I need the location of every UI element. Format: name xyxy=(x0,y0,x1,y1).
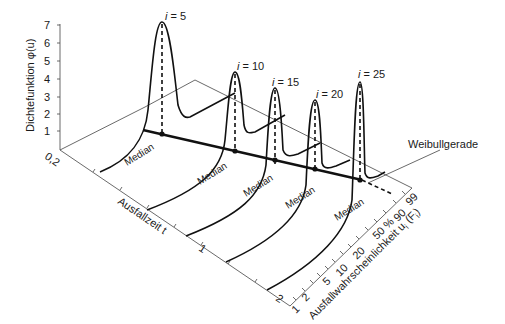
density-curve-i5 xyxy=(100,22,235,172)
median-label-i5: Median xyxy=(122,141,156,168)
prob-tick-1: 1 xyxy=(289,303,302,316)
peak-label-i15: i = 15 xyxy=(272,76,299,88)
y-tick-4: 4 xyxy=(44,73,50,85)
y-tick-2: 2 xyxy=(44,108,50,120)
peak-label-i5: i = 5 xyxy=(165,10,186,22)
prob-tick-99: 99 xyxy=(403,190,420,207)
density-curve-i10 xyxy=(147,72,285,210)
y-tick-7: 7 xyxy=(44,19,50,31)
time-axis-label: Ausfallzeit t xyxy=(116,195,169,236)
prob-tick-5: 5 xyxy=(320,275,333,288)
time-tick-2: 2 xyxy=(274,292,286,305)
y-axis xyxy=(57,24,60,150)
median-label-i15: Median xyxy=(241,172,275,199)
peak-label-i10: i = 10 xyxy=(237,60,264,72)
prob-tick-2: 2 xyxy=(299,291,312,304)
probability-axis-label: Ausfallwahrscheinlichkeit ui (Fi) xyxy=(306,205,424,323)
y-tick-1: 1 xyxy=(44,125,50,137)
origin-label: 0,2 xyxy=(43,150,62,169)
peak-label-i25: i = 25 xyxy=(358,68,385,80)
weibull-line xyxy=(143,130,440,194)
median-label-i10: Median xyxy=(195,160,229,187)
weibull-label: Weibullgerade xyxy=(408,138,478,150)
y-tick-5: 5 xyxy=(44,55,50,67)
density-curve-i15 xyxy=(186,88,320,236)
y-axis-label: Dichtefunktion φ(u) xyxy=(24,39,36,132)
weibull-density-diagram: 1 2 3 4 5 6 7 Dichtefunktion φ(u) 0,2 Au… xyxy=(0,0,505,324)
y-tick-3: 3 xyxy=(44,91,50,103)
median-label-i20: Median xyxy=(283,184,317,211)
median-label-i25: Median xyxy=(332,196,366,223)
y-tick-6: 6 xyxy=(44,37,50,49)
peak-label-i20: i = 20 xyxy=(316,88,343,100)
time-axis xyxy=(60,150,290,306)
